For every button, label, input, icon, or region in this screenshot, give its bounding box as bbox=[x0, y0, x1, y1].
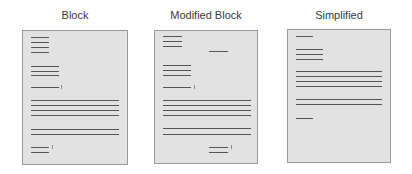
text-line-placeholder bbox=[296, 81, 382, 82]
text-line-placeholder bbox=[163, 46, 182, 47]
text-line-placeholder bbox=[209, 152, 228, 153]
modified-block-letter-page bbox=[154, 30, 258, 164]
text-line-placeholder bbox=[31, 115, 119, 116]
text-line-placeholder bbox=[31, 42, 49, 43]
text-line-placeholder bbox=[163, 41, 182, 42]
text-line-placeholder bbox=[296, 54, 323, 55]
text-line-placeholder bbox=[163, 115, 251, 116]
text-line-placeholder bbox=[296, 86, 382, 87]
text-line-placeholder bbox=[31, 71, 59, 72]
text-line-placeholder bbox=[31, 75, 59, 76]
text-line-placeholder bbox=[31, 52, 49, 53]
text-line-placeholder bbox=[163, 75, 191, 76]
punctuation-mark bbox=[231, 145, 232, 149]
text-line-placeholder bbox=[296, 76, 382, 77]
text-line-placeholder bbox=[31, 37, 49, 38]
text-line-placeholder bbox=[163, 65, 191, 66]
text-line-placeholder bbox=[163, 128, 251, 129]
text-line-placeholder bbox=[163, 100, 251, 101]
text-line-placeholder bbox=[31, 47, 49, 48]
text-line-placeholder bbox=[31, 147, 49, 148]
text-line-placeholder bbox=[31, 152, 49, 153]
text-line-placeholder bbox=[296, 99, 382, 100]
block-letter-page bbox=[22, 30, 128, 165]
text-line-placeholder bbox=[31, 134, 119, 135]
modified-block-title: Modified Block bbox=[170, 9, 242, 21]
text-line-placeholder bbox=[31, 105, 119, 106]
simplified-title: Simplified bbox=[315, 9, 363, 21]
block-title: Block bbox=[62, 9, 89, 21]
text-line-placeholder bbox=[31, 110, 119, 111]
text-line-placeholder bbox=[296, 71, 382, 72]
punctuation-mark bbox=[52, 145, 53, 149]
text-line-placeholder bbox=[296, 36, 313, 37]
text-line-placeholder bbox=[163, 87, 191, 88]
text-line-placeholder bbox=[163, 36, 182, 37]
punctuation-mark bbox=[194, 85, 195, 89]
text-line-placeholder bbox=[31, 87, 59, 88]
text-line-placeholder bbox=[296, 59, 323, 60]
text-line-placeholder bbox=[296, 118, 313, 119]
text-line-placeholder bbox=[163, 110, 251, 111]
text-line-placeholder bbox=[31, 129, 119, 130]
text-line-placeholder bbox=[296, 104, 382, 105]
text-line-placeholder bbox=[163, 70, 191, 71]
punctuation-mark bbox=[61, 85, 62, 89]
text-line-placeholder bbox=[163, 134, 251, 135]
text-line-placeholder bbox=[31, 100, 119, 101]
text-line-placeholder bbox=[31, 66, 59, 67]
text-line-placeholder bbox=[296, 49, 323, 50]
text-line-placeholder bbox=[163, 105, 251, 106]
text-line-placeholder bbox=[209, 51, 228, 52]
text-line-placeholder bbox=[209, 147, 228, 148]
